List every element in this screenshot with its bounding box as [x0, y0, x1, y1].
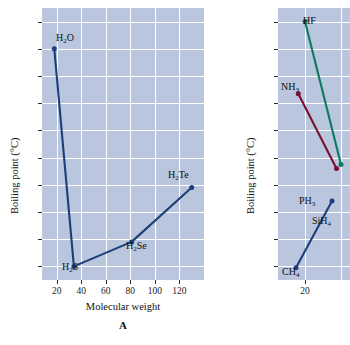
data-point — [334, 166, 339, 171]
point-label-nh3: NH3 — [281, 82, 299, 92]
point-label-hf: HF — [303, 16, 316, 26]
gridline-vertical — [341, 8, 342, 280]
point-label-sih4: SiH4 — [312, 216, 331, 226]
data-point — [330, 199, 335, 204]
point-label-ph3: PH3 — [299, 196, 315, 206]
data-point — [339, 162, 344, 167]
y-axis-title: Boiling point (°C) — [246, 137, 257, 214]
point-label-ch4: CH4 — [282, 267, 299, 277]
